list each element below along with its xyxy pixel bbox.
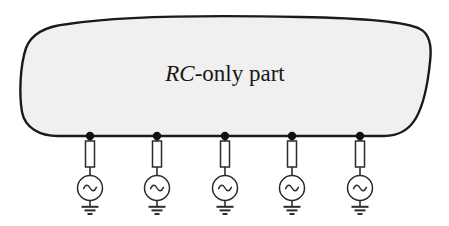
resistor-4[interactable] [285, 139, 299, 169]
ground-4[interactable] [282, 204, 302, 217]
branch-4[interactable] [279, 130, 306, 217]
ground-1[interactable] [80, 204, 100, 217]
ac-source-1[interactable] [77, 175, 104, 202]
ac-source-4[interactable] [279, 175, 306, 202]
blob-label-italic: RC [164, 61, 195, 86]
ground-3[interactable] [215, 204, 235, 217]
branch-1[interactable] [77, 130, 104, 217]
circuit-canvas: RC-only part [0, 0, 449, 226]
branch-group [77, 130, 374, 217]
ac-source-2[interactable] [144, 175, 171, 202]
branch-3[interactable] [212, 130, 239, 217]
resistor-5[interactable] [353, 139, 367, 169]
resistor-2[interactable] [150, 139, 164, 169]
blob-label: RC-only part [164, 61, 285, 86]
branch-2[interactable] [144, 130, 171, 217]
ac-source-3[interactable] [212, 175, 239, 202]
branch-5[interactable] [347, 130, 374, 217]
ground-2[interactable] [147, 204, 167, 217]
blob-label-roman: -only part [195, 61, 286, 86]
resistor-1[interactable] [83, 139, 97, 169]
ac-source-5[interactable] [347, 175, 374, 202]
circuit-figure: RC-only part [0, 0, 449, 226]
ground-5[interactable] [350, 204, 370, 217]
resistor-3[interactable] [218, 139, 232, 169]
